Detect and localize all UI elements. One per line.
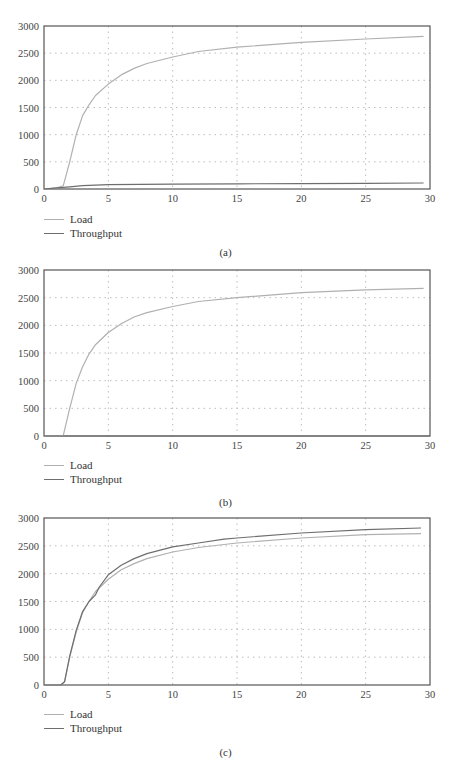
x-tick-label: 5	[106, 689, 111, 700]
legend-c: Load Throughput	[44, 707, 122, 735]
y-tick-label: 3000	[18, 513, 39, 524]
legend-label-load: Load	[70, 708, 93, 720]
caption-c: (c)	[0, 746, 451, 758]
legend-item-load: Load	[44, 707, 122, 721]
legend-label-throughput: Throughput	[70, 722, 122, 734]
x-tick-label: 25	[360, 689, 371, 700]
y-tick-label: 1500	[18, 597, 39, 608]
series-load-line	[44, 534, 421, 685]
x-tick-label: 10	[167, 689, 178, 700]
y-tick-label: 2000	[18, 569, 39, 580]
x-tick-label: 15	[232, 689, 243, 700]
load-line-swatch-icon	[44, 714, 64, 715]
legend-item-throughput: Throughput	[44, 721, 122, 735]
x-tick-label: 0	[41, 689, 46, 700]
line-chart-c: 050010001500200025003000051015202530	[0, 0, 451, 710]
x-tick-label: 20	[296, 689, 307, 700]
x-tick-label: 30	[425, 689, 436, 700]
y-tick-label: 0	[34, 680, 39, 691]
throughput-line-swatch-icon	[44, 728, 64, 729]
y-tick-label: 2500	[18, 541, 39, 552]
series-throughput-line	[44, 528, 421, 685]
y-tick-label: 500	[23, 652, 39, 663]
y-tick-label: 1000	[18, 624, 39, 635]
chart-c-plot: 050010001500200025003000051015202530	[18, 513, 435, 700]
